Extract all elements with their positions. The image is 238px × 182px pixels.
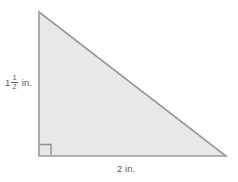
triangle-graphic [0, 0, 238, 182]
right-triangle-diagram: 1 1 2 in. 2 in. [0, 0, 238, 182]
triangle-shape [39, 12, 226, 156]
whole-number-part: 1 [5, 78, 10, 88]
height-unit-text: in. [22, 78, 32, 88]
width-dimension-label: 2 in. [117, 164, 135, 174]
fraction-denominator: 2 [11, 83, 17, 91]
fraction-one-half: 1 2 [11, 74, 17, 91]
fraction-numerator: 1 [11, 74, 17, 82]
height-dimension-label: 1 1 2 in. [5, 74, 32, 91]
mixed-number-one-and-one-half: 1 1 2 [5, 74, 19, 91]
